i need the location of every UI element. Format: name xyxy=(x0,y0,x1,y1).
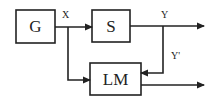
edge-y-prime-to-lm xyxy=(141,26,163,73)
block-diagram: G S LM X Y Y' xyxy=(0,0,219,103)
signal-x-label: X xyxy=(62,9,70,20)
block-lm: LM xyxy=(90,63,141,95)
block-g-label: G xyxy=(29,17,41,36)
signal-y-label: Y xyxy=(161,9,168,20)
block-lm-label: LM xyxy=(103,70,129,89)
edge-x-to-lm xyxy=(68,27,90,80)
block-s: S xyxy=(92,10,130,42)
block-s-label: S xyxy=(106,17,115,36)
block-g: G xyxy=(16,10,55,43)
signal-y-prime-label: Y' xyxy=(171,50,180,61)
